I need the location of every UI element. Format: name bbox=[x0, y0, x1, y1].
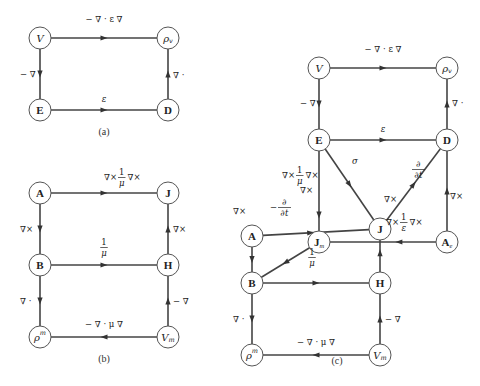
arrowhead-icon bbox=[37, 226, 42, 233]
edge-a-E_D bbox=[51, 107, 157, 112]
svg-text:∂t: ∂t bbox=[281, 208, 289, 218]
arrowhead-icon bbox=[101, 35, 108, 40]
edge-label-b-Vm_H: − ∇ bbox=[173, 296, 189, 306]
arrowhead-icon bbox=[37, 298, 42, 305]
edge-label-a-D_rho: ∇ · bbox=[173, 70, 184, 80]
edge-label-c-D_rho: ∇ · bbox=[452, 98, 463, 108]
edge-label-c-Vm_H: − ∇ bbox=[385, 314, 401, 324]
edge-label-c-Vm_rho: − ∇ · μ ∇ bbox=[297, 337, 335, 347]
svg-text:− ∇: − ∇ bbox=[20, 69, 36, 79]
svg-text:E: E bbox=[36, 104, 43, 116]
edge-label-b-A_J: ∇× 1μ∇× bbox=[104, 167, 141, 188]
svg-text:− ∇: − ∇ bbox=[300, 98, 316, 108]
arrowhead-icon bbox=[281, 258, 290, 266]
svg-text:− ∇: − ∇ bbox=[385, 314, 401, 324]
svg-text:∇×: ∇× bbox=[450, 191, 463, 201]
svg-text:− ∇ · ε ∇: − ∇ · ε ∇ bbox=[86, 14, 123, 24]
arrowhead-icon bbox=[165, 71, 170, 78]
edge-label-c-Jm_B: − ∂∂t bbox=[270, 197, 291, 218]
svg-text:∇×: ∇× bbox=[306, 170, 319, 180]
svg-text:H: H bbox=[376, 277, 385, 289]
node-b-J: J bbox=[157, 182, 179, 204]
svg-text:∇×: ∇× bbox=[104, 172, 117, 182]
arrowhead-icon bbox=[101, 107, 108, 112]
edge-c-B_H bbox=[263, 280, 369, 285]
edge-label-c-B_rho: ∇ · bbox=[233, 314, 244, 324]
edge-label-a-V_rho: − ∇ · ε ∇ bbox=[86, 14, 123, 24]
node-c-Ae: Ae bbox=[436, 231, 458, 253]
node-a-rho_v: ρv bbox=[157, 27, 179, 49]
svg-text:D: D bbox=[164, 104, 172, 116]
edge-label-c-D_J: ∂∂t bbox=[412, 159, 425, 180]
edge-c-Jm_B bbox=[261, 248, 309, 278]
svg-text:μ: μ bbox=[309, 258, 315, 268]
edge-a-D_rho bbox=[165, 49, 170, 99]
svg-text:∇×: ∇× bbox=[173, 224, 186, 234]
node-c-D: D bbox=[436, 129, 458, 151]
arrowhead-icon bbox=[444, 101, 449, 108]
edge-c-Vm_H bbox=[377, 294, 382, 344]
svg-text:− ∇ · μ ∇: − ∇ · μ ∇ bbox=[297, 337, 335, 347]
svg-text:1: 1 bbox=[119, 167, 124, 177]
svg-text:∂: ∂ bbox=[416, 159, 420, 169]
arrowhead-icon bbox=[377, 249, 382, 256]
arrowhead-icon bbox=[313, 280, 320, 285]
edge-a-V_E bbox=[37, 49, 42, 99]
node-a-D: D bbox=[157, 99, 179, 121]
caption-c: (c) bbox=[331, 355, 342, 367]
svg-text:−: − bbox=[270, 202, 277, 212]
arrowhead-icon bbox=[316, 212, 321, 219]
node-c-A: A bbox=[241, 225, 263, 247]
edge-label-b-B_rho: ∇ · bbox=[20, 296, 31, 306]
edge-label-c-E_Jm: ∇× bbox=[300, 185, 313, 195]
arrowhead-icon bbox=[380, 137, 387, 142]
arrowhead-icon bbox=[101, 262, 108, 267]
svg-text:ε: ε bbox=[401, 223, 406, 233]
node-a-E: E bbox=[29, 99, 51, 121]
edge-label-b-Vm_rho: − ∇ · μ ∇ bbox=[85, 319, 123, 329]
svg-text:σ: σ bbox=[352, 156, 358, 166]
edge-b-Vm_H bbox=[165, 276, 170, 326]
node-b-H: H bbox=[157, 254, 179, 276]
edge-label-b-B_H: 1μ bbox=[100, 237, 108, 258]
node-b-V_m: Vm bbox=[157, 326, 179, 348]
svg-text:1: 1 bbox=[297, 165, 302, 175]
arrowhead-icon bbox=[165, 226, 170, 233]
edge-label-c-A_J: ∇× 1μ∇× bbox=[282, 165, 319, 186]
svg-text:∇ ·: ∇ · bbox=[20, 296, 31, 306]
svg-text:∇×: ∇× bbox=[282, 170, 295, 180]
edge-label-c-H_J: ∇× bbox=[384, 194, 397, 204]
svg-text:H: H bbox=[164, 259, 173, 271]
svg-text:D: D bbox=[443, 134, 451, 146]
svg-text:B: B bbox=[248, 277, 256, 289]
arrowhead-icon bbox=[101, 334, 108, 339]
edge-c-A_B bbox=[249, 247, 254, 272]
svg-text:A: A bbox=[248, 230, 256, 242]
edge-c-Vm_rho bbox=[263, 352, 369, 357]
svg-text:B: B bbox=[36, 259, 44, 271]
svg-text:A: A bbox=[36, 187, 44, 199]
node-c-B: B bbox=[241, 272, 263, 294]
edge-c-H_J bbox=[377, 240, 382, 272]
svg-text:∇ ·: ∇ · bbox=[452, 98, 463, 108]
edge-c-V_rho bbox=[330, 65, 436, 70]
node-a-V: V bbox=[29, 27, 51, 49]
arrowhead-icon bbox=[377, 316, 382, 323]
svg-text:− ∇: − ∇ bbox=[173, 296, 189, 306]
svg-text:∂t: ∂t bbox=[415, 170, 423, 180]
svg-text:∇×: ∇× bbox=[384, 194, 397, 204]
edge-label-c-E_J: σ bbox=[352, 156, 358, 166]
edge-label-c-Ae_Jm: ∇× 1ε∇× bbox=[386, 212, 423, 233]
edge-label-c-Ae_D: ∇× bbox=[450, 191, 463, 201]
svg-text:J: J bbox=[165, 187, 171, 199]
edge-b-A_B bbox=[37, 204, 42, 254]
edge-label-c-A_B: ∇× bbox=[233, 206, 246, 216]
svg-text:∇×: ∇× bbox=[233, 206, 246, 216]
arrowhead-icon bbox=[165, 298, 170, 305]
svg-text:1: 1 bbox=[401, 212, 406, 222]
svg-text:1: 1 bbox=[101, 237, 106, 247]
arrowhead-icon bbox=[313, 352, 320, 357]
edge-b-H_J bbox=[165, 204, 170, 254]
svg-text:μ: μ bbox=[101, 248, 107, 258]
edge-c-D_rho bbox=[444, 79, 449, 129]
